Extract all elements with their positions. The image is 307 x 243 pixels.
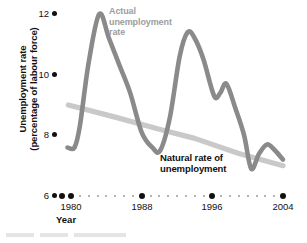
x-tick-minor-dot: [123, 195, 125, 197]
x-tick-minor-dot: [220, 195, 222, 197]
x-tick-minor-dot: [247, 195, 249, 197]
x-tick-minor-dot: [158, 195, 160, 197]
x-tick-minor-dot: [264, 195, 266, 197]
x-axis-label: Year: [56, 214, 76, 225]
x-tick-minor-dot: [114, 195, 116, 197]
x-tick-minor-dot: [150, 195, 152, 197]
x-tick-minor-dot: [79, 195, 81, 197]
annotation-actual-line2: unemployment: [109, 17, 172, 27]
x-tick-1980-label: 1980: [60, 201, 81, 212]
annotation-actual-rate: Actual unemployment rate: [109, 6, 172, 38]
x-tick-dot-1980: [68, 193, 74, 199]
annotation-natural-line1: Natural rate of: [160, 152, 223, 163]
x-tick-minor-dot: [59, 193, 65, 199]
x-tick-minor-dot: [176, 195, 178, 197]
unemployment-rate-chart: Unemployment rate (percentage of labour …: [0, 0, 307, 243]
x-tick-2004-label: 2004: [272, 201, 293, 212]
x-tick-dot-1996: [209, 193, 215, 199]
x-tick-minor-dot: [185, 195, 187, 197]
x-tick-minor-dot: [167, 195, 169, 197]
series-actual-rate-line: [67, 13, 283, 169]
x-tick-minor-dot: [97, 195, 99, 197]
x-tick-1988-label: 1988: [131, 201, 152, 212]
x-tick-minor-dot: [229, 195, 231, 197]
annotation-actual-line1: Actual: [109, 6, 136, 16]
x-tick-minor-dot: [256, 195, 258, 197]
x-tick-minor-dot: [132, 195, 134, 197]
annotation-natural-rate: Natural rate of unemployment: [160, 152, 226, 174]
x-tick-minor-dot: [194, 195, 196, 197]
x-tick-minor-dot: [238, 195, 240, 197]
x-tick-1996-label: 1996: [201, 201, 222, 212]
x-tick-minor-dot: [105, 195, 107, 197]
x-tick-dot-1988: [139, 193, 145, 199]
annotation-actual-line3: rate: [109, 27, 125, 37]
caption-strip-decoration: [6, 233, 126, 237]
x-tick-minor-dot: [273, 195, 275, 197]
x-tick-minor-dot: [203, 195, 205, 197]
x-tick-minor-dot: [88, 195, 90, 197]
x-tick-dot-2004: [280, 193, 286, 199]
annotation-natural-line2: unemployment: [160, 163, 226, 174]
